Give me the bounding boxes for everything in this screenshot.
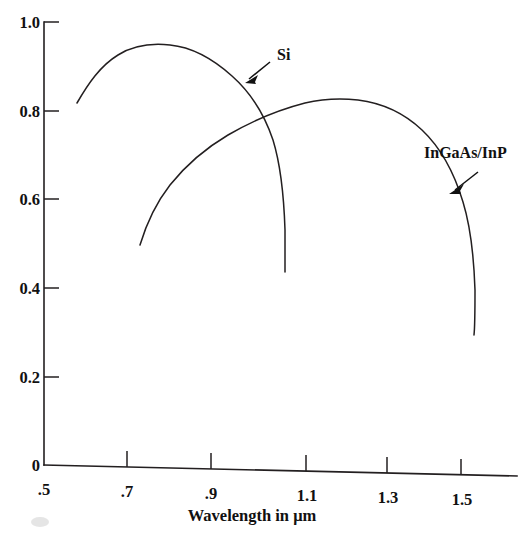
y-axis-labels: 1.0 0.8 0.6 0.4 0.2 0 xyxy=(19,13,40,475)
annotation-si: Si xyxy=(245,46,291,84)
chart-figure: 1.0 0.8 0.6 0.4 0.2 0 .5 .7 .9 1.1 1.3 1… xyxy=(0,0,529,535)
x-tick-label-0_7: .7 xyxy=(121,482,133,501)
annotation-ingaas-leader xyxy=(455,172,478,190)
chart-canvas: 1.0 0.8 0.6 0.4 0.2 0 .5 .7 .9 1.1 1.3 1… xyxy=(0,0,529,535)
y-tick-label-0_4: 0.4 xyxy=(19,279,40,298)
series-curve-ingaas xyxy=(140,99,475,335)
x-tick-label-1_3: 1.3 xyxy=(378,488,399,507)
x-tick-label-0_5: .5 xyxy=(38,480,50,499)
y-tick-label-0_2: 0.2 xyxy=(19,368,40,387)
series-label-si: Si xyxy=(277,46,291,63)
series-label-ingaas: InGaAs/InP xyxy=(424,144,507,161)
annotation-si-leader xyxy=(249,62,270,79)
annotation-ingaas-arrow-icon xyxy=(449,184,464,194)
y-tick-label-0: 0 xyxy=(32,456,40,475)
x-axis-labels: .5 .7 .9 1.1 1.3 1.5 xyxy=(38,480,473,509)
x-tick-label-1_5: 1.5 xyxy=(452,490,473,509)
axes xyxy=(44,22,517,476)
x-axis-line xyxy=(44,465,517,476)
x-tick-label-1_1: 1.1 xyxy=(297,486,318,505)
annotation-ingaas: InGaAs/InP xyxy=(424,144,507,194)
x-tick-label-0_9: .9 xyxy=(205,484,217,503)
x-axis-title: Wavelength in μm xyxy=(188,506,317,525)
y-tick-label-0_6: 0.6 xyxy=(19,190,40,209)
y-axis-ticks xyxy=(44,22,59,377)
scan-artifact xyxy=(31,517,49,527)
y-tick-label-0_8: 0.8 xyxy=(19,102,40,121)
y-tick-label-1_0: 1.0 xyxy=(19,13,40,32)
